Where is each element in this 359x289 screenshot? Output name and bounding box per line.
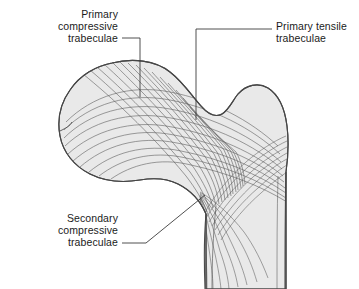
leader-secondary-compressive <box>122 195 205 243</box>
label-line: compressive <box>18 20 118 32</box>
label-line: Secondary <box>14 212 118 224</box>
label-primary-tensile-trabeculae: Primary tensile trabeculae <box>276 20 358 44</box>
figure-canvas: Primary compressive trabeculae Primary t… <box>0 0 359 289</box>
leader-primary-compressive <box>122 38 140 97</box>
label-line: trabeculae <box>14 236 118 248</box>
label-line: Primary tensile <box>276 20 358 32</box>
label-line: trabeculae <box>276 32 358 44</box>
label-line: Primary <box>18 8 118 20</box>
label-line: trabeculae <box>18 32 118 44</box>
label-line: compressive <box>14 224 118 236</box>
label-primary-compressive-trabeculae: Primary compressive trabeculae <box>18 8 118 44</box>
leader-primary-tensile <box>196 29 272 120</box>
label-secondary-compressive-trabeculae: Secondary compressive trabeculae <box>14 212 118 248</box>
